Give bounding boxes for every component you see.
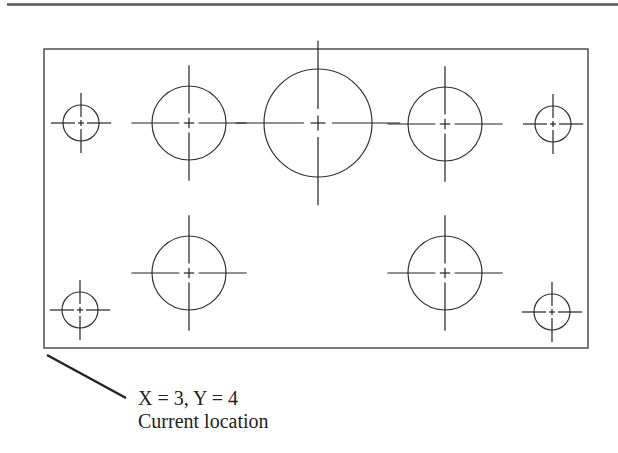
hole-large-top-center <box>236 41 401 206</box>
hole-medium-top-left <box>131 65 246 180</box>
leader-line <box>47 355 126 398</box>
hole-medium-bottom-left <box>131 215 246 330</box>
hole-small-bottom-left <box>50 280 110 340</box>
holes-group <box>50 41 583 342</box>
hole-medium-top-right <box>387 66 502 181</box>
plate-outline <box>44 49 588 348</box>
coordinates-label: X = 3, Y = 4 <box>138 387 238 410</box>
current-location-label: Current location <box>138 410 269 433</box>
hole-small-top-right <box>523 94 583 154</box>
hole-small-top-left <box>51 93 111 153</box>
plate-drawing <box>0 0 618 453</box>
hole-small-bottom-right <box>522 282 582 342</box>
hole-medium-bottom-right <box>387 215 502 330</box>
